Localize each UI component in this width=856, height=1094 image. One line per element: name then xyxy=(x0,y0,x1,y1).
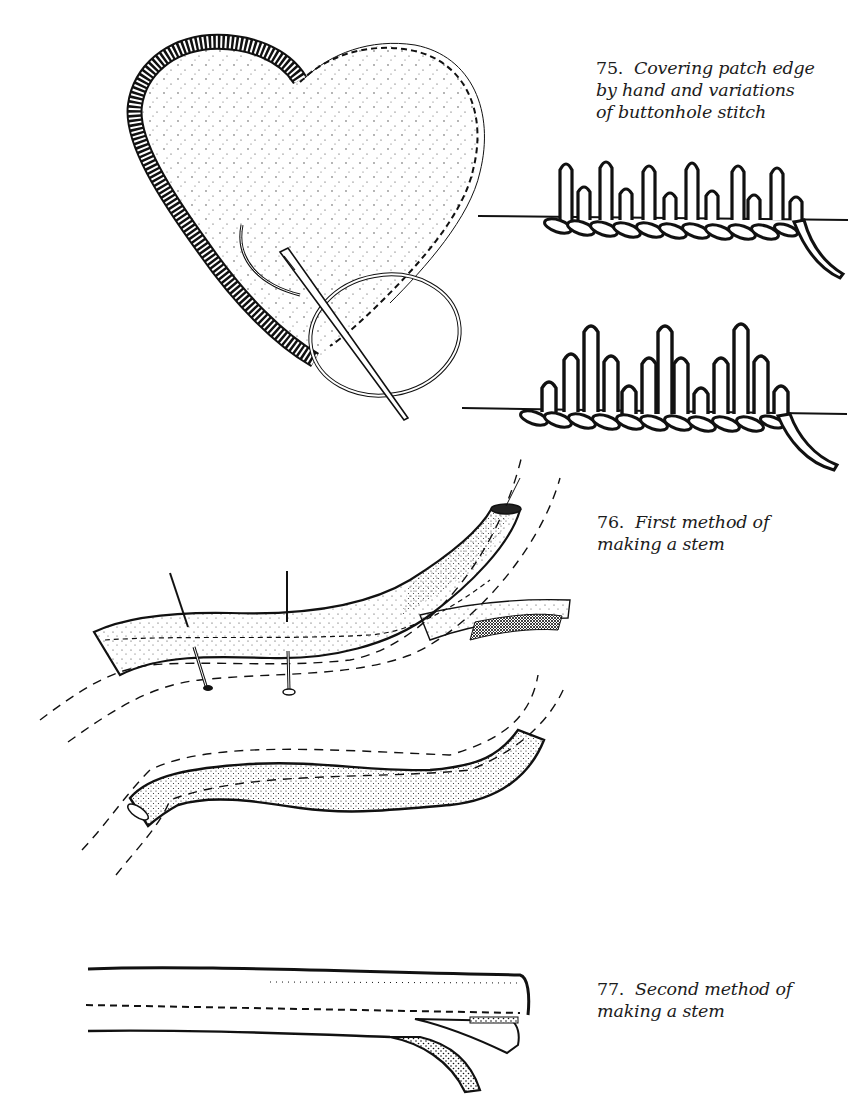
figure-76-caption: 76. First method of making a stem xyxy=(597,511,769,555)
heart-patch-drawing xyxy=(120,20,500,430)
stem-method-2-drawing xyxy=(80,955,550,1094)
heart-patch-illustration xyxy=(120,20,500,430)
figure-77-caption-line-2: making a stem xyxy=(597,1000,792,1022)
stem-method-1-drawing xyxy=(30,450,580,880)
figure-77-number: 77. xyxy=(597,979,624,999)
figure-75-caption-line-3: of buttonhole stitch xyxy=(596,101,815,123)
figure-76-caption-line-2: making a stem xyxy=(597,533,769,555)
buttonhole-stitch-drawing-1 xyxy=(478,150,848,285)
figure-75-caption: 75. Covering patch edge by hand and vari… xyxy=(596,57,815,123)
figure-75-caption-line-2: by hand and variations xyxy=(596,79,815,101)
stem-method-2-illustration xyxy=(80,955,550,1094)
figure-75-caption-line-1: Covering patch edge xyxy=(634,58,815,78)
figure-75-number: 75. xyxy=(596,58,623,78)
stem-method-1-illustration xyxy=(30,450,580,880)
figure-77-caption: 77. Second method of making a stem xyxy=(597,978,792,1022)
figure-77-caption-line-1: Second method of xyxy=(635,979,792,999)
buttonhole-stitch-variation-1 xyxy=(478,150,848,285)
figure-76-caption-line-1: First method of xyxy=(635,512,769,532)
figure-76-number: 76. xyxy=(597,512,624,532)
